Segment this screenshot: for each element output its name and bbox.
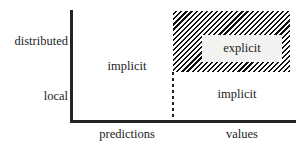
y-axis-tick-local: local <box>44 90 68 103</box>
cell-label-explicit-values: explicit <box>202 35 282 62</box>
y-axis-tick-distributed: distributed <box>15 35 68 48</box>
cell-label-implicit-values: implicit <box>196 88 278 101</box>
quadrant-diagram: distributed local implicit explicit impl… <box>0 0 303 148</box>
x-axis-tick-values: values <box>199 128 285 141</box>
dashed-divider <box>172 72 174 122</box>
x-axis <box>70 120 296 123</box>
cell-label-implicit-predictions: implicit <box>86 60 168 73</box>
x-axis-tick-predictions: predictions <box>84 128 170 141</box>
y-axis <box>70 10 73 123</box>
